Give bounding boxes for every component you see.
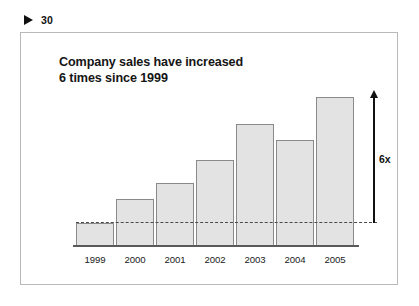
triangle-right-icon — [24, 15, 33, 25]
slide-frame: Company sales have increased 6 times sin… — [20, 32, 398, 285]
tick-label-1999: 1999 — [75, 254, 115, 266]
title-line-1: Company sales have increased — [59, 55, 359, 71]
bar-2003 — [236, 124, 274, 246]
bar-chart: 1999200020012002200320042005 6x — [51, 73, 387, 278]
tick-label-2005: 2005 — [315, 254, 355, 266]
page-header: 30 — [24, 13, 53, 27]
bar-2005 — [316, 97, 354, 246]
bar-2001 — [156, 183, 194, 246]
bar-1999 — [76, 223, 114, 246]
bar-2004 — [276, 140, 314, 246]
x-axis-tick-labels: 1999200020012002200320042005 — [75, 250, 355, 266]
arrow-up-icon — [370, 90, 378, 98]
growth-arrow-shaft — [373, 97, 375, 223]
x-axis-line — [73, 245, 359, 247]
bar-2002 — [196, 160, 234, 246]
page-number: 30 — [41, 15, 53, 26]
tick-label-2002: 2002 — [195, 254, 235, 266]
tick-label-2003: 2003 — [235, 254, 275, 266]
tick-label-2004: 2004 — [275, 254, 315, 266]
growth-multiple-label: 6x — [379, 154, 390, 165]
tick-label-2001: 2001 — [155, 254, 195, 266]
tick-label-2000: 2000 — [115, 254, 155, 266]
baseline-reference-line — [76, 222, 377, 223]
slide-page: 30 Company sales have increased 6 times … — [0, 0, 419, 306]
